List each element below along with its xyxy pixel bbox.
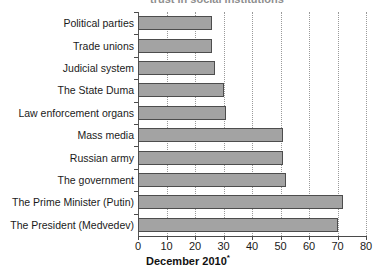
- y-axis-tick: [134, 191, 138, 192]
- x-axis-tick-label: 10: [155, 240, 179, 252]
- bar: [138, 195, 343, 209]
- y-axis-tick: [134, 214, 138, 215]
- category-label: Political parties: [63, 17, 134, 29]
- category-label: Law enforcement organs: [18, 107, 134, 119]
- bar: [138, 106, 226, 120]
- x-axis-tick-label: 0: [126, 240, 150, 252]
- clipped-title-strip: trust in social institutions: [0, 0, 376, 9]
- y-axis-tick: [134, 146, 138, 147]
- x-axis-tick-label: 70: [326, 240, 350, 252]
- x-axis-tick-label: 50: [269, 240, 293, 252]
- y-axis-tick: [134, 102, 138, 103]
- bar: [138, 39, 212, 53]
- x-axis-caption: December 2010*: [0, 253, 376, 267]
- gridline-80: [366, 12, 367, 236]
- y-axis-tick: [134, 34, 138, 35]
- category-label: The President (Medvedev): [10, 219, 134, 231]
- y-axis-tick: [134, 169, 138, 170]
- bar-chart: trust in social institutions Political p…: [0, 0, 376, 268]
- category-label: The government: [58, 174, 134, 186]
- category-label: Judicial system: [63, 62, 134, 74]
- category-label: The State Duma: [58, 84, 134, 96]
- x-axis-tick-label: 30: [212, 240, 236, 252]
- bar: [138, 173, 286, 187]
- category-label: Mass media: [77, 129, 134, 141]
- bar: [138, 128, 283, 142]
- category-label: Russian army: [70, 152, 134, 164]
- y-axis-tick: [134, 124, 138, 125]
- bar: [138, 61, 215, 75]
- bar: [138, 16, 212, 30]
- bar: [138, 151, 283, 165]
- x-axis-tick-label: 20: [183, 240, 207, 252]
- footnote-marker: *: [227, 253, 230, 262]
- plot-area: [138, 12, 366, 236]
- bar: [138, 218, 338, 232]
- x-axis-tick-label: 60: [297, 240, 321, 252]
- category-label: Trade unions: [73, 40, 134, 52]
- bar: [138, 83, 224, 97]
- x-axis-tick-label: 80: [354, 240, 376, 252]
- y-axis-tick: [134, 79, 138, 80]
- y-axis-tick: [134, 12, 138, 13]
- x-axis-caption-text: December 2010: [146, 255, 227, 267]
- y-axis-tick: [134, 57, 138, 58]
- category-label: The Prime Minister (Putin): [12, 196, 134, 208]
- x-axis-tick-label: 40: [240, 240, 264, 252]
- chart-title-clipped: trust in social institutions: [150, 0, 284, 5]
